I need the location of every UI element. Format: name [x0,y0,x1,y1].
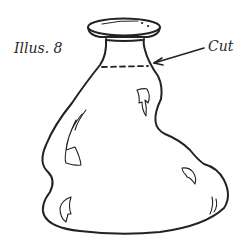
cut-arrow [154,48,204,65]
vase-rim [88,19,160,42]
illustration-title: Illus. 8 [14,40,63,56]
vase-body [42,39,228,234]
cut-line [102,66,148,67]
illustration-canvas: Illus. 8 Cut [0,0,249,251]
cut-callout-label: Cut [208,38,233,54]
